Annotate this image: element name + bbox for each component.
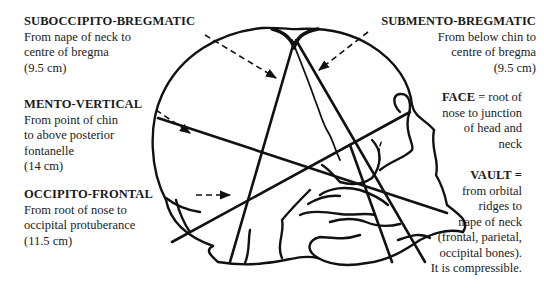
label-line: centre of bregma [24, 45, 195, 61]
label-suboccipito-bregmatic: SUBOCCIPITO-BREGMATIC From nape of neck … [24, 14, 195, 76]
label-title: SUBOCCIPITO-BREGMATIC [24, 14, 195, 30]
label-line: nose to junction [442, 106, 522, 122]
label-vault: VAULT = from orbital ridges to nape of n… [431, 168, 522, 277]
label-line: (9.5 cm) [381, 61, 536, 77]
label-line: fontanelle [24, 144, 142, 160]
label-submento-bregmatic: SUBMENTO-BREGMATIC From below chin to ce… [381, 14, 536, 76]
label-line: It is compressible. [431, 261, 522, 277]
arrow-submento-bregmatic [319, 32, 368, 70]
label-title: MENTO-VERTICAL [24, 97, 142, 113]
arrow-suboccipito-bregmatic [205, 35, 276, 78]
label-line: (frontal, parietal, [431, 230, 522, 246]
label-line: From root of nose to [24, 203, 153, 219]
label-line: ridges to [431, 199, 522, 215]
label-line: (9.5 cm) [24, 61, 195, 77]
label-line: (11.5 cm) [24, 234, 153, 250]
label-line: occipital protuberance [24, 218, 153, 234]
label-line: of head and [442, 121, 522, 137]
arrow-mento-vertical [156, 110, 190, 133]
label-line: to above posterior [24, 128, 142, 144]
label-line: From below chin to [381, 30, 536, 46]
label-title: VAULT = [431, 168, 522, 184]
label-line: From nape of neck to [24, 30, 195, 46]
label-line: centre of bregma [381, 45, 536, 61]
label-line: occipital bones). [431, 246, 522, 262]
label-face: FACE = root of nose to junction of head … [442, 90, 522, 152]
label-title: OCCIPITO-FRONTAL [24, 187, 153, 203]
label-line: neck [442, 137, 522, 153]
label-title-suffix: = root of [475, 90, 522, 104]
label-occipito-frontal: OCCIPITO-FRONTAL From root of nose to oc… [24, 187, 153, 249]
label-title: FACE [442, 90, 475, 104]
label-line: nape of neck [431, 215, 522, 231]
label-line: (14 cm) [24, 159, 142, 175]
label-line: From point of chin [24, 113, 142, 129]
label-line: from orbital [431, 184, 522, 200]
label-title: SUBMENTO-BREGMATIC [381, 14, 536, 30]
label-mento-vertical: MENTO-VERTICAL From point of chin to abo… [24, 97, 142, 175]
